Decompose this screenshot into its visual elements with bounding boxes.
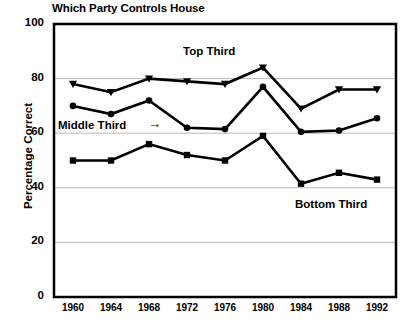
data-point [222, 157, 228, 163]
data-point [70, 157, 76, 163]
data-point [184, 124, 191, 131]
data-point [108, 157, 114, 163]
data-point [260, 83, 267, 90]
data-point [374, 176, 380, 182]
data-point [222, 126, 229, 133]
series-annotation-bottom-third: Bottom Third [295, 198, 367, 210]
data-point [70, 103, 77, 110]
series-line [73, 68, 377, 109]
series-annotation-middle-third: Middle Third [58, 119, 126, 131]
data-point [298, 129, 305, 136]
data-point [146, 141, 152, 147]
data-point [374, 115, 381, 122]
data-point [184, 152, 190, 158]
series-bottom-third [70, 133, 380, 187]
data-point [336, 127, 343, 134]
data-point [260, 133, 266, 139]
data-point [108, 111, 115, 118]
series-top-third [69, 64, 381, 112]
arrow-right-icon: → [148, 116, 161, 131]
data-point [297, 105, 305, 112]
series-annotation-top-third: Top Third [183, 45, 235, 57]
data-point [298, 181, 304, 187]
data-point [146, 97, 153, 104]
chart-container: Which Party Controls House Percentage Co… [0, 0, 410, 323]
data-point [336, 170, 342, 176]
